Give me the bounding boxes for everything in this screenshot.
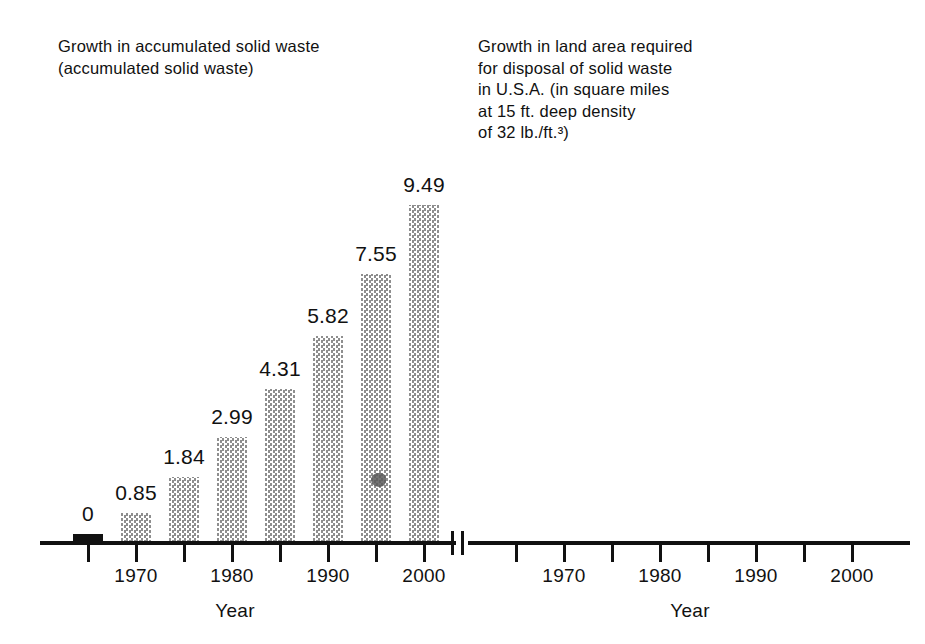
x-axis-tick-label: 2000 [830, 565, 873, 587]
x-axis-tick [87, 545, 90, 562]
x-axis-tick-label: 1970 [114, 565, 157, 587]
axis-break-mark-left [451, 531, 454, 555]
bar-value-label: 1.84 [163, 445, 205, 469]
x-axis-tick [327, 545, 330, 562]
bar [313, 336, 343, 543]
left-x-axis-label: Year [215, 600, 255, 622]
x-axis-tick [659, 545, 662, 562]
x-axis-tick [851, 545, 854, 562]
x-axis-tick-label: 1980 [210, 565, 253, 587]
right-chart-panel: 01403055167279841,2661,594 [462, 0, 925, 644]
x-axis-tick [803, 545, 806, 562]
x-axis-tick-label: 1980 [638, 565, 681, 587]
x-axis-tick [135, 545, 138, 562]
x-axis-tick [231, 545, 234, 562]
x-axis-tick [515, 545, 518, 562]
right-x-axis-label: Year [670, 600, 710, 622]
bar-value-label: 0.85 [115, 481, 157, 505]
bar-value-label: 0 [82, 502, 94, 526]
x-axis-tick [183, 545, 186, 562]
right-plot-area: 01403055167279841,2661,594 [462, 0, 925, 543]
x-axis-tick [279, 545, 282, 562]
x-axis-tick-label: 1990 [734, 565, 777, 587]
print-smudge-artifact [371, 473, 386, 487]
bar [169, 477, 199, 543]
x-axis-tick-label: 2000 [402, 565, 445, 587]
bar [361, 274, 391, 543]
x-axis-tick-label: 1970 [542, 565, 585, 587]
bar-value-label: 2.99 [211, 405, 253, 429]
x-axis-tick [611, 545, 614, 562]
bar-value-label: 9.49 [403, 173, 445, 197]
left-plot-area: 00.851.842.994.315.827.559.49 [0, 0, 462, 543]
left-x-axis-line [40, 541, 456, 545]
bar-value-label: 7.55 [355, 242, 397, 266]
right-x-axis-line [468, 541, 910, 545]
figure-canvas: Growth in accumulated solid waste (accum… [0, 0, 925, 644]
x-axis-tick [375, 545, 378, 562]
bar [265, 389, 295, 543]
bar [409, 205, 439, 543]
x-axis-tick [563, 545, 566, 562]
bar-value-label: 4.31 [259, 357, 301, 381]
x-axis-tick-label: 1990 [306, 565, 349, 587]
bar [217, 437, 247, 543]
bar [121, 513, 151, 543]
x-axis-tick [755, 545, 758, 562]
bar-value-label: 5.82 [307, 304, 349, 328]
x-axis-tick [707, 545, 710, 562]
x-axis-tick [423, 545, 426, 562]
axis-break-mark-right [461, 531, 464, 555]
